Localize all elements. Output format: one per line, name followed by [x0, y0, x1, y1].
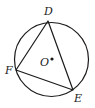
diagram-canvas: D E F O — [0, 0, 95, 108]
label-o: O — [40, 56, 49, 69]
label-d: D — [43, 5, 53, 18]
geometry-diagram: D E F O — [0, 0, 95, 108]
label-f: F — [4, 64, 13, 77]
label-e: E — [73, 92, 82, 105]
center-point — [50, 57, 53, 60]
